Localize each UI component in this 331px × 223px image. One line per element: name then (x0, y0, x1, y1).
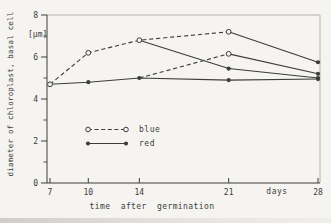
marker-open-circle (137, 38, 142, 43)
marker-filled-circle (137, 76, 141, 80)
scan-bottom-edge (0, 218, 331, 223)
y-tick-label: 0 (33, 179, 38, 188)
legend-item-blue: blue (84, 125, 160, 134)
x-tick-label: 7 (48, 188, 53, 197)
y-tick-label: 4 (33, 95, 38, 104)
axis-lines (47, 15, 320, 183)
marker-filled-circle (227, 66, 231, 70)
series-line-red-blue-then-red-from-day-21 (229, 54, 318, 74)
legend-label-blue: blue (139, 125, 160, 134)
series-line-red-then-blue-from-day-14 (139, 54, 228, 78)
y-tick-label: 6 (33, 53, 38, 62)
marker-open-circle (226, 51, 231, 56)
legend-line-solid-icon (84, 139, 130, 148)
x-axis-days-label: days (266, 187, 287, 196)
y-axis-label: diameter of chloroplast, basal cell (6, 9, 16, 179)
marker-filled-circle (316, 60, 320, 64)
x-tick-label: 14 (135, 188, 145, 197)
x-tick-label: 21 (224, 188, 234, 197)
legend-label-red: red (139, 139, 155, 148)
marker-filled-circle (316, 77, 320, 81)
series-line-blue-then-red-from-day-21 (229, 32, 318, 62)
marker-filled-circle (86, 80, 90, 84)
y-tick-label: 8 (33, 11, 38, 20)
marker-filled-circle (316, 72, 320, 76)
legend: blue red (84, 125, 160, 152)
marker-open-circle (86, 50, 91, 55)
x-axis-title: time after germination (52, 202, 252, 211)
legend-line-dashed-icon (84, 125, 130, 134)
plot-frame-light (47, 15, 320, 183)
x-tick-label: 10 (83, 188, 93, 197)
marker-open-circle (48, 82, 53, 87)
y-tick-label: 2 (33, 137, 38, 146)
legend-item-red: red (84, 139, 160, 148)
y-axis-unit-label: [µm] (28, 30, 47, 39)
series-line-blue-then-red-from-day-14 (139, 40, 318, 78)
series-line-red-continuous (50, 78, 318, 84)
x-tick-label: 28 (313, 188, 323, 197)
marker-open-circle (226, 29, 231, 34)
scanned-line-chart-figure: 02468710142128 diameter of chloroplast, … (0, 0, 331, 223)
marker-filled-circle (227, 78, 231, 82)
